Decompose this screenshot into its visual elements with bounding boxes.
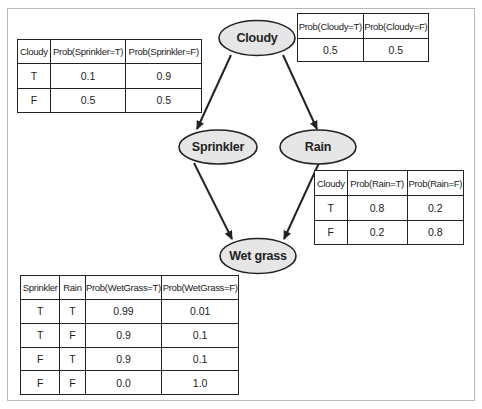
table-cell: F — [60, 323, 85, 347]
table-header-cell: Prob(WetGrass=T) — [85, 276, 162, 300]
table-cell: 0.2 — [347, 220, 407, 245]
node-sprinkler-label: Sprinkler — [192, 140, 244, 154]
table-cell: T — [60, 300, 85, 324]
table-row: F 0.2 0.8 — [315, 220, 464, 245]
table-cell: 0.5 — [298, 39, 364, 62]
table-cell: 0.2 — [407, 196, 463, 221]
table-header-cell: Prob(WetGrass=F) — [162, 276, 239, 300]
table-header-cell: Prob(Cloudy=T) — [298, 14, 364, 39]
table-cell: T — [18, 64, 51, 89]
table-header-row: Prob(Cloudy=T) Prob(Cloudy=F) — [298, 14, 429, 39]
table-header-cell: Rain — [60, 276, 85, 300]
table-header-cell: Prob(Rain=T) — [347, 171, 407, 196]
table-cell: 0.99 — [85, 300, 162, 324]
table-cell: 0.01 — [162, 300, 239, 324]
table-cell: F — [21, 347, 60, 371]
edge-cloudy-to-rain — [283, 55, 317, 129]
table-row: 0.5 0.5 — [298, 39, 429, 62]
table-row: F 0.5 0.5 — [18, 88, 202, 113]
table-row: T F 0.9 0.1 — [21, 323, 239, 347]
table-header-cell: Prob(Rain=F) — [407, 171, 463, 196]
table-cell: 0.9 — [85, 347, 162, 371]
table-header-row: Cloudy Prob(Rain=T) Prob(Rain=F) — [315, 171, 464, 196]
cpt-sprinkler-table: Cloudy Prob(Sprinkler=T) Prob(Sprinkler=… — [17, 39, 202, 113]
table-cell: 0.1 — [50, 64, 126, 89]
table-header-cell: Cloudy — [18, 40, 51, 64]
table-header-row: Sprinkler Rain Prob(WetGrass=T) Prob(Wet… — [21, 276, 239, 300]
table-cell: 0.9 — [85, 323, 162, 347]
edge-sprinkler-to-wetgrass — [194, 163, 232, 239]
table-row: F F 0.0 1.0 — [21, 371, 239, 395]
node-rain-label: Rain — [305, 140, 331, 154]
table-header-cell: Prob(Sprinkler=F) — [126, 40, 202, 64]
table-cell: 0.5 — [363, 39, 429, 62]
table-header-cell: Sprinkler — [21, 276, 60, 300]
table-row: T T 0.99 0.01 — [21, 300, 239, 324]
table-cell: 1.0 — [162, 371, 239, 395]
table-cell: T — [21, 323, 60, 347]
table-cell: T — [60, 347, 85, 371]
node-wetgrass-label: Wet grass — [229, 249, 287, 263]
edge-cloudy-to-sprinkler — [197, 55, 231, 129]
table-cell: 0.1 — [162, 347, 239, 371]
table-cell: 0.5 — [126, 88, 202, 113]
table-cell: 0.8 — [347, 196, 407, 221]
table-cell: F — [315, 220, 348, 245]
cpt-cloudy-table: Prob(Cloudy=T) Prob(Cloudy=F) 0.5 0.5 — [297, 13, 429, 62]
cpt-wetgrass-table: Sprinkler Rain Prob(WetGrass=T) Prob(Wet… — [20, 275, 239, 395]
table-header-cell: Prob(Sprinkler=T) — [50, 40, 126, 64]
table-cell: F — [21, 371, 60, 395]
table-cell: T — [315, 196, 348, 221]
table-row: F T 0.9 0.1 — [21, 347, 239, 371]
table-cell: T — [21, 300, 60, 324]
table-cell: 0.5 — [50, 88, 126, 113]
node-cloudy-label: Cloudy — [236, 31, 277, 45]
table-cell: 0.9 — [126, 64, 202, 89]
table-cell: 0.8 — [407, 220, 463, 245]
table-cell: F — [18, 88, 51, 113]
table-row: T 0.8 0.2 — [315, 196, 464, 221]
table-cell: 0.1 — [162, 323, 239, 347]
cpt-rain-table: Cloudy Prob(Rain=T) Prob(Rain=F) T 0.8 0… — [314, 170, 464, 245]
table-cell: F — [60, 371, 85, 395]
table-header-cell: Cloudy — [315, 171, 348, 196]
table-row: T 0.1 0.9 — [18, 64, 202, 89]
table-header-row: Cloudy Prob(Sprinkler=T) Prob(Sprinkler=… — [18, 40, 202, 64]
table-cell: 0.0 — [85, 371, 162, 395]
table-header-cell: Prob(Cloudy=F) — [363, 14, 429, 39]
